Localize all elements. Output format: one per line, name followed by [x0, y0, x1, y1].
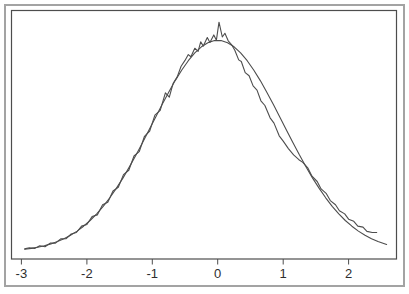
x-axis-tick-label: 2 [345, 266, 352, 281]
x-axis-tick-label: -3 [16, 266, 28, 281]
density-plot-figure: -3-2-1012 [0, 0, 409, 294]
x-axis-tick-label: 1 [280, 266, 287, 281]
x-axis: -3-2-1012 [16, 259, 353, 281]
plot-border [12, 11, 397, 260]
x-axis-tick-label: -1 [147, 266, 159, 281]
x-axis-tick-label: -2 [81, 266, 93, 281]
density-plot-canvas: -3-2-1012 [0, 0, 409, 294]
x-axis-tick-label: 0 [214, 266, 221, 281]
